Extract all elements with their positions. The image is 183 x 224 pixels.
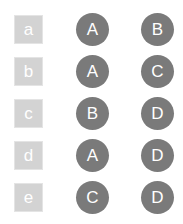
row-label: b — [14, 57, 43, 86]
row-c: c B D — [0, 93, 183, 135]
choice-first[interactable]: A — [76, 55, 109, 88]
choice-first[interactable]: A — [76, 13, 109, 46]
row-d: d A D — [0, 135, 183, 177]
choice-first[interactable]: A — [76, 139, 109, 172]
choice-second[interactable]: D — [141, 97, 174, 130]
choice-second[interactable]: D — [141, 181, 174, 214]
choice-second[interactable]: B — [141, 13, 174, 46]
row-label: e — [14, 183, 43, 212]
row-label: c — [14, 99, 43, 128]
row-label: a — [14, 15, 43, 44]
row-label: d — [14, 141, 43, 170]
row-a: a A B — [0, 9, 183, 51]
choice-second[interactable]: D — [141, 139, 174, 172]
choice-second[interactable]: C — [141, 55, 174, 88]
row-b: b A C — [0, 51, 183, 93]
row-e: e C D — [0, 177, 183, 219]
choice-first[interactable]: B — [76, 97, 109, 130]
choice-first[interactable]: C — [76, 181, 109, 214]
